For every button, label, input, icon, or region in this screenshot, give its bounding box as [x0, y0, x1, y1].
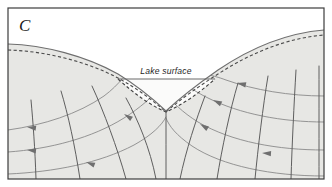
panel-label-c: C — [19, 16, 31, 35]
figure-panel: Lake surface C — [0, 0, 332, 187]
lake-surface-label: Lake surface — [140, 66, 192, 76]
lake-groundwater-flow-net-diagram: Lake surface C — [0, 0, 332, 187]
